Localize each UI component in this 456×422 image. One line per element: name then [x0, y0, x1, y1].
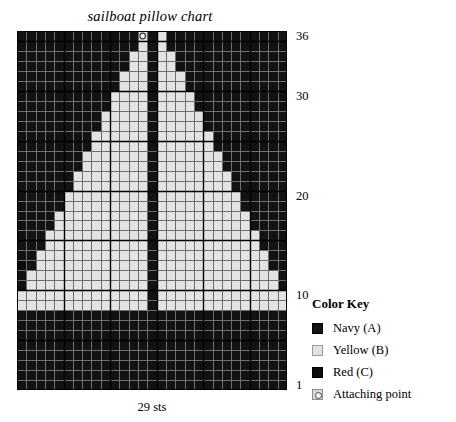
legend-items: Navy (A)Yellow (B)Red (C)Attaching point: [312, 319, 452, 404]
legend-item-label: Navy (A): [333, 321, 381, 336]
legend-item-label: Attaching point: [333, 387, 411, 402]
legend-item: Navy (A): [312, 319, 452, 338]
color-key-legend: Color Key Navy (A)Yellow (B)Red (C)Attac…: [312, 296, 452, 407]
page-title: sailboat pillow chart: [0, 8, 300, 25]
legend-item-label: Red (C): [333, 365, 373, 380]
sailboat-chart-grid: [17, 31, 287, 390]
red-swatch: [312, 367, 323, 378]
row-number-label: 30: [296, 90, 309, 103]
row-number-label: 10: [296, 289, 309, 302]
row-number-label: 1: [296, 379, 302, 392]
row-number-label: 20: [296, 190, 309, 203]
legend-heading: Color Key: [312, 296, 452, 312]
legend-item: Yellow (B): [312, 341, 452, 360]
chart-canvas: [17, 31, 287, 390]
attaching-point-swatch: [312, 389, 323, 400]
row-number-label: 36: [296, 30, 309, 43]
legend-item-label: Yellow (B): [333, 343, 388, 358]
yellow-swatch: [312, 345, 323, 356]
stitch-count-caption: 29 sts: [17, 400, 287, 415]
legend-item: Red (C): [312, 363, 452, 382]
navy-swatch: [312, 323, 323, 334]
legend-item: Attaching point: [312, 385, 452, 404]
